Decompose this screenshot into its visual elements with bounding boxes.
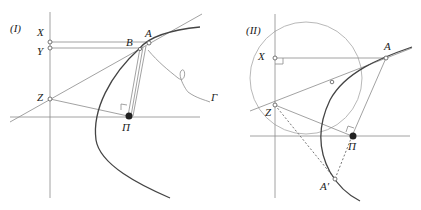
figure-two: (II) X Z A Π A′ [246, 14, 412, 201]
a-pi-line-2 [133, 46, 146, 116]
point-z-one [48, 97, 52, 101]
z-aprime-dashed [275, 105, 335, 179]
label-z-two: Z [265, 106, 272, 118]
figure-two-label: (II) [246, 24, 261, 37]
point-y-one [48, 46, 52, 50]
right-angle-marker-one [121, 104, 127, 110]
label-b-one: B [126, 36, 133, 48]
geometry-diagram: (I) X Y Z A B Π Γ [0, 0, 421, 210]
point-midpoint-two [330, 80, 334, 84]
z-pi-line [50, 99, 128, 116]
a-pi-line-1 [131, 47, 143, 116]
point-x-two [273, 56, 277, 60]
label-pi-one: Π [121, 121, 131, 133]
label-pi-two: Π [347, 140, 357, 152]
point-b-one [138, 47, 141, 50]
label-z-one: Z [37, 91, 44, 103]
right-angle-marker-pi [346, 126, 354, 132]
point-a-one [147, 41, 151, 45]
label-gamma: Γ [210, 91, 218, 103]
label-a-two: A [383, 40, 391, 52]
point-pi-one [126, 113, 133, 120]
label-aprime-two: A′ [319, 180, 330, 192]
point-aprime-two [333, 177, 337, 181]
point-z-two [273, 103, 277, 107]
label-a-one: A [144, 27, 152, 39]
figure-one-label: (I) [10, 22, 21, 35]
gamma-curve [148, 50, 210, 102]
z-pi-line-two [275, 105, 352, 136]
figure-one: (I) X Y Z A B Π Γ [10, 12, 218, 198]
label-y-one: Y [37, 45, 45, 57]
point-a-two [384, 56, 388, 60]
point-x-one [48, 40, 52, 44]
point-pi-two [350, 133, 357, 140]
label-x-two: X [257, 50, 266, 62]
label-x-one: X [36, 26, 45, 38]
